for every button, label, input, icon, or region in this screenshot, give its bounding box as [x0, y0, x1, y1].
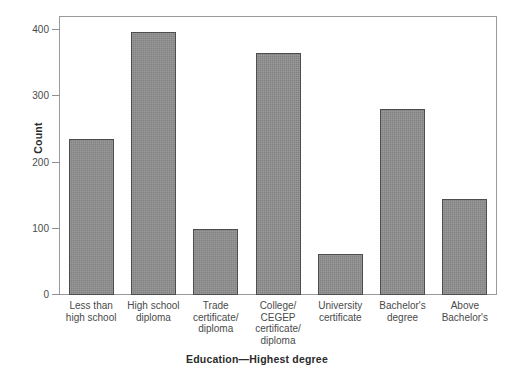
- bar-slot: [318, 17, 363, 295]
- y-axis-tick-label: 200: [32, 156, 49, 170]
- bar-chart: Count 0100200300400 Less thanhigh school…: [0, 0, 514, 374]
- bar: [380, 109, 425, 295]
- bar-slot: [69, 17, 114, 295]
- bar: [193, 229, 238, 295]
- bar-slot: [442, 17, 487, 295]
- x-axis-tick-labels: Less thanhigh schoolHigh schooldiplomaTr…: [60, 300, 496, 352]
- bar-series: [60, 17, 496, 295]
- y-axis-tick: 300: [1, 89, 60, 103]
- bar: [318, 254, 363, 295]
- bar-slot: [256, 17, 301, 295]
- y-axis-tick-mark: [52, 294, 60, 295]
- y-axis-tick-label: 100: [32, 222, 49, 236]
- x-axis-tick-label: Bachelor'sdegree: [369, 300, 437, 323]
- y-axis-tick: 400: [1, 23, 60, 37]
- x-axis-tick-label: High schooldiploma: [119, 300, 187, 323]
- x-axis-tick-label: AboveBachelor's: [431, 300, 499, 323]
- bar-slot: [380, 17, 425, 295]
- x-axis-tick-label: Universitycertificate: [306, 300, 374, 323]
- y-axis-tick-label: 300: [32, 89, 49, 103]
- y-axis-tick-label: 0: [43, 288, 49, 302]
- bar-slot: [193, 17, 238, 295]
- y-axis-tick: 200: [1, 156, 60, 170]
- y-axis-tick-mark: [52, 95, 60, 96]
- y-axis-tick: 0: [1, 288, 60, 302]
- x-axis-tick-label: Less thanhigh school: [57, 300, 125, 323]
- bar: [256, 53, 301, 295]
- y-axis-tick-label: 400: [32, 23, 49, 37]
- y-axis-tick: 100: [1, 222, 60, 236]
- x-axis-tick-label: College/CEGEPcertificate/diploma: [244, 300, 312, 346]
- bar-slot: [131, 17, 176, 295]
- bar: [131, 32, 176, 295]
- x-axis-title: Education—Highest degree: [0, 353, 514, 365]
- bar: [442, 199, 487, 295]
- bar: [69, 139, 114, 295]
- x-axis-tick-label: Tradecertificate/diploma: [182, 300, 250, 335]
- y-axis-tick-mark: [52, 29, 60, 30]
- y-axis-tick-mark: [52, 228, 60, 229]
- y-axis-tick-mark: [52, 162, 60, 163]
